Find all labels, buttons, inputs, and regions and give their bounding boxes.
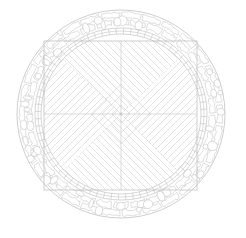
circular-paving-plan [0, 0, 246, 238]
drawing-canvas [0, 0, 246, 238]
